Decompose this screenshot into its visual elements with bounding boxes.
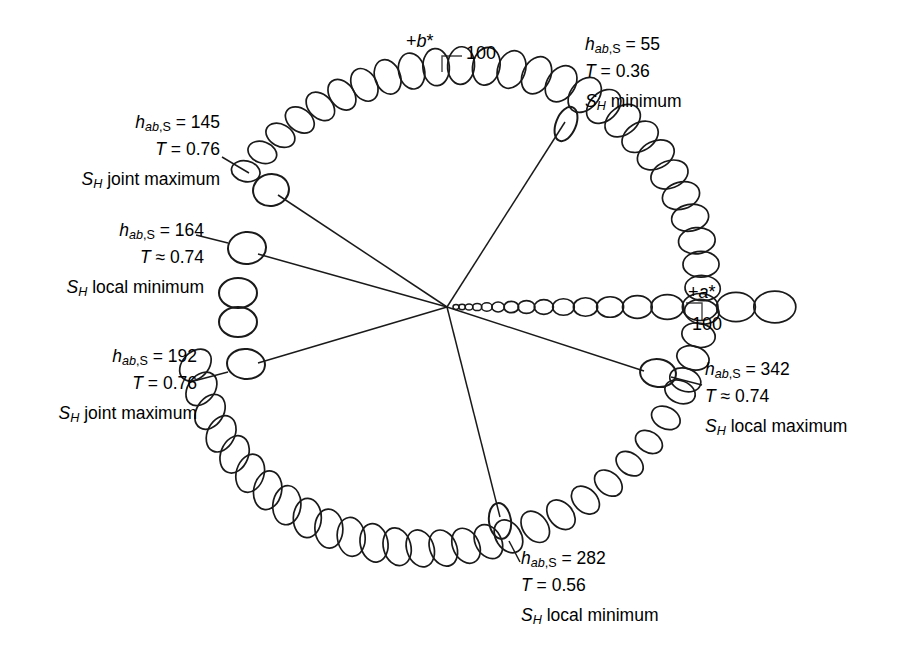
axis-chain-ellipse	[622, 296, 652, 319]
callout-282-t: T = 0.56	[521, 573, 659, 598]
b-star-tick	[442, 56, 462, 72]
ellipse-diagram	[0, 0, 897, 657]
callout-192-s: SH joint maximum	[0, 401, 197, 428]
axis-tick-label-b-star: 100	[466, 43, 496, 64]
callout-164-s: SH local minimum	[0, 275, 204, 302]
marker-ellipse-145	[250, 171, 291, 209]
marker-ellipse-192	[226, 347, 267, 381]
leader-line-164	[258, 254, 447, 307]
discrimination-ellipse	[421, 48, 450, 87]
leader-line-55	[447, 122, 565, 307]
discrimination-ellipse	[468, 520, 508, 564]
callout-282-hue: hab,S = 282	[521, 546, 659, 573]
discrimination-ellipse	[262, 118, 299, 152]
callout-stub-145	[222, 157, 249, 173]
callout-145-s: SH joint maximum	[8, 167, 220, 194]
axis-chain-ellipse	[473, 303, 482, 310]
leader-line-145	[278, 195, 447, 307]
axis-chain-ellipse	[754, 291, 796, 323]
callout-hue-145: hab,S = 145 T = 0.76 SH joint maximum	[8, 110, 220, 194]
callout-55-t: T = 0.36	[585, 59, 682, 84]
callout-164-hue: hab,S = 164	[0, 218, 204, 245]
axis-chain-ellipse	[504, 301, 519, 312]
axis-chain-ellipse	[534, 300, 553, 315]
axis-chain-ellipse	[573, 298, 597, 316]
axis-chain-ellipse	[492, 302, 505, 312]
marker-ellipse-pair-lower	[219, 307, 257, 337]
callout-hue-192: hab,S = 192 T = 0.76 SH joint maximum	[0, 344, 197, 428]
callout-192-hue: hab,S = 192	[0, 344, 197, 371]
marker-ellipse-164	[227, 230, 268, 265]
discrimination-ellipse	[446, 524, 486, 569]
discrimination-ellipse	[245, 137, 280, 167]
leader-line-192	[258, 307, 447, 363]
axis-chain-ellipse	[717, 292, 756, 321]
discrimination-ellipse	[541, 494, 581, 535]
callout-hue-342: hab,S = 342 T ≈ 0.74 SH local maximum	[705, 357, 847, 441]
figure-root: hab,S = 145 T = 0.76 SH joint maximum ha…	[0, 0, 897, 657]
axis-chain-ellipse	[465, 304, 473, 310]
callout-342-t: T ≈ 0.74	[705, 384, 847, 409]
discrimination-ellipse	[301, 87, 341, 127]
discrimination-ellipse	[683, 251, 719, 277]
callout-342-hue: hab,S = 342	[705, 357, 847, 384]
callout-192-t: T = 0.76	[0, 371, 197, 396]
discrimination-ellipse	[631, 426, 666, 459]
axis-label-b-star: +b*	[406, 31, 434, 52]
callout-145-hue: hab,S = 145	[8, 110, 220, 137]
discrimination-ellipse	[566, 481, 605, 520]
discrimination-ellipse	[357, 521, 391, 564]
leader-line-282	[447, 307, 500, 517]
callout-145-t: T = 0.76	[8, 137, 220, 162]
axis-tick-label-a-star: 100	[692, 314, 722, 335]
axis-chain-ellipse	[553, 299, 575, 316]
callout-342-s: SH local maximum	[705, 414, 847, 441]
callout-55-s: SH minimum	[585, 89, 682, 116]
callout-hue-282: hab,S = 282 T = 0.56 SH local minimum	[521, 546, 659, 630]
axis-chain-ellipse	[651, 295, 684, 320]
discrimination-ellipse	[516, 52, 558, 99]
marker-ellipse-pair-upper	[219, 278, 257, 308]
axis-chain-ellipse	[518, 301, 535, 314]
discrimination-ellipse	[539, 60, 584, 108]
callout-164-t: T ≈ 0.74	[0, 245, 204, 270]
callout-hue-55: hab,S = 55 T = 0.36 SH minimum	[585, 32, 682, 116]
axis-chain-ellipse	[597, 297, 624, 317]
axis-label-a-star: +a*	[688, 282, 716, 303]
discrimination-ellipse	[322, 74, 362, 115]
discrimination-ellipse	[515, 506, 555, 548]
callout-hue-164: hab,S = 164 T ≈ 0.74 SH local minimum	[0, 218, 204, 302]
callout-55-hue: hab,S = 55	[585, 32, 682, 59]
discrimination-ellipse	[616, 115, 664, 159]
leader-lines	[190, 122, 702, 562]
discrimination-ellipse	[345, 64, 383, 106]
discrimination-ellipse	[648, 401, 685, 434]
discrimination-ellipse	[280, 101, 319, 138]
callout-282-s: SH local minimum	[521, 603, 659, 630]
axis-chain-ellipse	[481, 303, 492, 311]
